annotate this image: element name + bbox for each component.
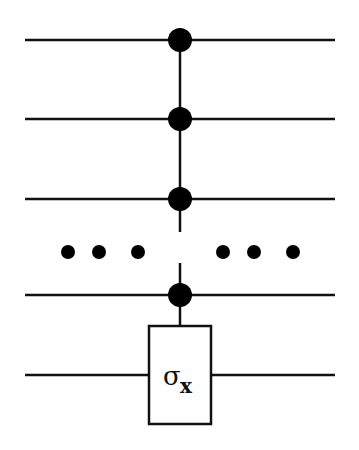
gate-symbol: σ — [163, 361, 181, 391]
vertical-ellipsis-dots — [61, 245, 300, 259]
control-dot-n — [168, 283, 192, 307]
control-dot-1 — [168, 28, 192, 52]
control-dot-3 — [168, 187, 192, 211]
control-dot-2 — [168, 107, 192, 131]
quantum-circuit-diagram: σ x — [0, 0, 359, 450]
gate-subscript: x — [180, 374, 193, 398]
